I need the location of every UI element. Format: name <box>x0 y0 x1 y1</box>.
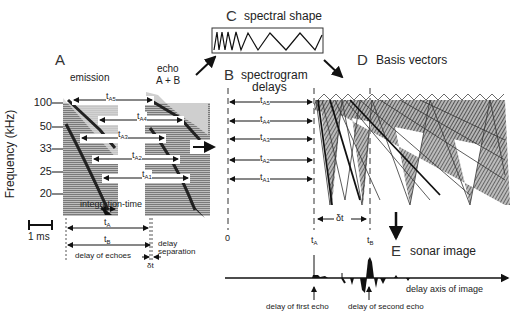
echo-label: echo <box>157 64 179 74</box>
a-delay-label-a4: tA4 <box>137 112 147 122</box>
a-delay-label-a2: tA2 <box>132 151 142 161</box>
integration-time-label: integration-time <box>80 200 142 209</box>
y-tick-100: 100 <box>26 97 52 108</box>
b-delay-label-a1: tA1 <box>260 173 270 183</box>
a-delta-t-label: δt <box>147 262 154 270</box>
panel-c-letter: C <box>226 8 237 23</box>
a-tb-label: tB <box>104 235 111 245</box>
echo-ab-label: A + B <box>156 76 180 86</box>
delay-axis-label: delay axis of image <box>406 285 483 294</box>
b-zero-label: 0 <box>225 234 230 243</box>
panel-e-letter: E <box>391 243 401 258</box>
panel-d-letter: D <box>357 52 368 67</box>
y-tick-25: 25 <box>26 166 52 177</box>
b-delay-label-a3: tA3 <box>260 133 270 143</box>
first-echo-label: delay of first echo <box>266 303 329 311</box>
y-tick-20: 20 <box>26 188 52 199</box>
arrow-a-to-c <box>196 57 215 75</box>
second-echo-label: delay of second echo <box>348 303 424 311</box>
arrow-c-to-d <box>324 60 342 77</box>
b-delay-label-a5: tA5 <box>260 96 270 106</box>
a-ta-label: tA <box>104 218 111 228</box>
a-delay-label-a1: tA1 <box>142 170 152 180</box>
delay-separation-label-2: separation <box>158 248 195 256</box>
b-delay-label-a2: tA2 <box>260 154 270 164</box>
sonar-image-title: sonar image <box>410 245 476 257</box>
basis-vectors-title: Basis vectors <box>376 54 447 66</box>
delays-title: delays <box>252 81 287 93</box>
a-delay-label-a5: tA5 <box>106 92 116 102</box>
frequency-axis-label: Frequency (kHz) <box>4 110 16 199</box>
basis-vectors-plot <box>314 94 510 205</box>
b-delta-t-label: δt <box>336 214 344 223</box>
panel-b-letter: B <box>224 67 234 82</box>
spectral-shape-title: spectral shape <box>244 10 322 22</box>
panel-a-letter: A <box>55 52 65 67</box>
b-delay-label-a4: tA4 <box>260 115 270 125</box>
diagram-graphics <box>0 0 524 330</box>
delay-of-echoes-label: delay of echoes <box>75 252 131 260</box>
emission-label: emission <box>70 73 109 83</box>
b-ta-label: tA <box>311 236 318 246</box>
scale-bar-label: 1 ms <box>28 232 50 242</box>
b-tb-label: tB <box>367 236 374 246</box>
a-delay-label-a3: tA3 <box>118 130 128 140</box>
spectral-shape-plot <box>212 28 323 53</box>
y-tick-33: 33 <box>26 143 52 154</box>
frequency-axis-ticks <box>52 103 63 194</box>
y-tick-50: 50 <box>26 121 52 132</box>
